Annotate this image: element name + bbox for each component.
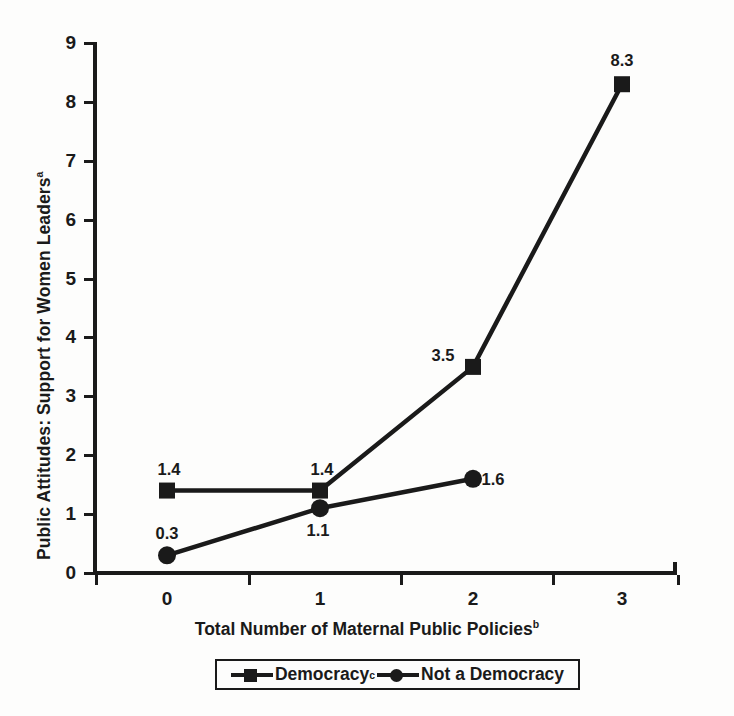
y-tick-5 (84, 278, 94, 281)
y-tick-label-7: 7 (50, 151, 76, 170)
legend-marker-circle-icon (377, 666, 419, 684)
y-tick-label-2: 2 (50, 445, 76, 464)
x-tick-3 (552, 575, 555, 585)
data-point-label-circle-1: 1.1 (298, 522, 338, 539)
y-tick-label-4: 4 (50, 327, 76, 346)
data-point-square-2[interactable] (465, 359, 481, 375)
y-tick-label-5: 5 (50, 269, 76, 288)
x-tick-label-2: 2 (453, 589, 493, 608)
legend-entry-democracy[interactable]: Democracyc (231, 664, 375, 685)
y-tick-label-9: 9 (50, 33, 76, 52)
data-point-label-circle-2: 1.6 (473, 471, 513, 488)
x-tick-2 (400, 575, 403, 585)
x-tick-1 (248, 575, 251, 585)
series-line-democracy (167, 84, 622, 490)
chart-figure: Public Attitudes: Support for Women Lead… (0, 0, 734, 716)
y-tick-label-1: 1 (50, 504, 76, 523)
x-tick-4 (677, 575, 680, 585)
data-point-square-0[interactable] (159, 483, 175, 499)
x-axis-title: Total Number of Maternal Public Policies… (0, 619, 734, 640)
y-axis-title-text: Public Attitudes: Support for Women Lead… (34, 177, 54, 560)
y-tick-label-0: 0 (50, 563, 76, 582)
x-tick-label-3: 3 (602, 589, 642, 608)
y-axis-line (93, 42, 97, 575)
y-tick-label-3: 3 (50, 386, 76, 405)
data-point-circle-1[interactable] (311, 499, 329, 517)
y-axis-title-container: Public Attitudes: Support for Women Lead… (0, 0, 56, 600)
x-tick-label-1: 1 (300, 589, 340, 608)
y-tick-8 (84, 101, 94, 104)
y-tick-7 (84, 160, 94, 163)
data-point-label-square-3: 8.3 (602, 52, 642, 69)
data-point-square-1[interactable] (312, 483, 328, 499)
x-axis-title-superscript: b (533, 618, 539, 630)
y-tick-0 (84, 572, 94, 575)
y-tick-9 (84, 42, 94, 45)
x-tick-0 (95, 575, 98, 585)
data-point-label-square-2: 3.5 (423, 347, 463, 364)
data-point-label-circle-0: 0.3 (147, 525, 187, 542)
legend-label-democracy: Democracy (275, 664, 369, 685)
y-tick-label-6: 6 (50, 210, 76, 229)
y-tick-6 (84, 219, 94, 222)
y-tick-label-8: 8 (50, 92, 76, 111)
x-axis-title-text: Total Number of Maternal Public Policies (195, 619, 533, 639)
y-axis-title-superscript: a (33, 172, 45, 178)
x-axis-line (93, 571, 677, 575)
data-point-label-square-0: 1.4 (149, 461, 189, 478)
y-tick-4 (84, 336, 94, 339)
data-point-circle-0[interactable] (158, 546, 176, 564)
data-point-label-square-1: 1.4 (302, 461, 342, 478)
legend-marker-square-icon (231, 666, 273, 684)
y-axis-title: Public Attitudes: Support for Women Lead… (34, 172, 55, 560)
legend-label-not-a-democracy: Not a Democracy (421, 664, 564, 685)
data-point-square-3[interactable] (614, 76, 630, 92)
series-line-not-a-democracy (167, 479, 473, 556)
y-tick-1 (84, 513, 94, 516)
legend-entry-not-a-democracy[interactable]: Not a Democracy (377, 664, 564, 685)
chart-legend: Democracyc Not a Democracy (215, 659, 580, 690)
x-axis-end-cap (673, 562, 677, 575)
y-tick-3 (84, 395, 94, 398)
y-tick-2 (84, 454, 94, 457)
x-tick-label-0: 0 (147, 589, 187, 608)
